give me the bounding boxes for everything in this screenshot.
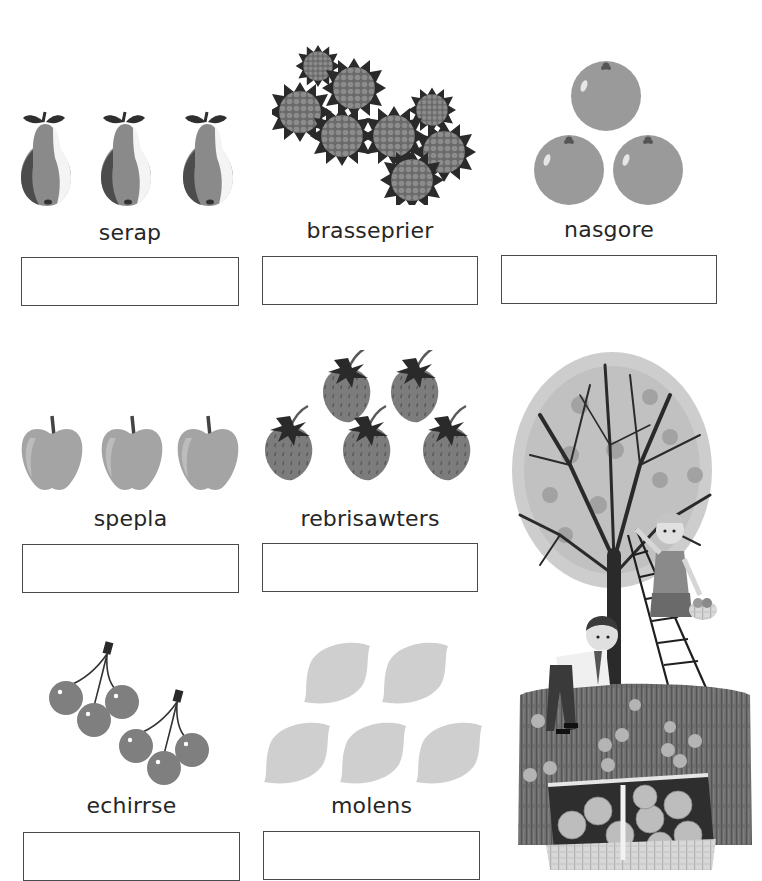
cherries-illustration xyxy=(40,640,220,790)
raspberries-illustration xyxy=(272,40,482,205)
orchard-illustration xyxy=(510,345,762,870)
answer-input-pears[interactable] xyxy=(21,257,239,306)
answer-input-cherries[interactable] xyxy=(23,832,240,881)
strawberries-illustration xyxy=(262,350,482,495)
scrambled-word-lemons: molens xyxy=(263,793,480,819)
apple-basket xyxy=(546,775,716,870)
scrambled-word-pears: serap xyxy=(21,220,239,246)
answer-input-raspberries[interactable] xyxy=(262,256,478,305)
pears-illustration xyxy=(15,110,245,210)
answer-input-apples[interactable] xyxy=(22,544,239,593)
scrambled-word-raspberries: brasseprier xyxy=(262,218,478,244)
oranges-illustration xyxy=(530,58,700,208)
scrambled-word-apples: spepla xyxy=(22,506,239,532)
apples-illustration xyxy=(18,412,248,496)
scrambled-word-oranges: nasgore xyxy=(501,217,717,243)
answer-input-lemons[interactable] xyxy=(263,831,480,880)
scrambled-word-cherries: echirrse xyxy=(23,793,240,819)
scrambled-word-strawberries: rebrisawters xyxy=(262,506,478,532)
answer-input-oranges[interactable] xyxy=(501,255,717,304)
lemons-illustration xyxy=(262,642,482,792)
answer-input-strawberries[interactable] xyxy=(262,543,478,592)
